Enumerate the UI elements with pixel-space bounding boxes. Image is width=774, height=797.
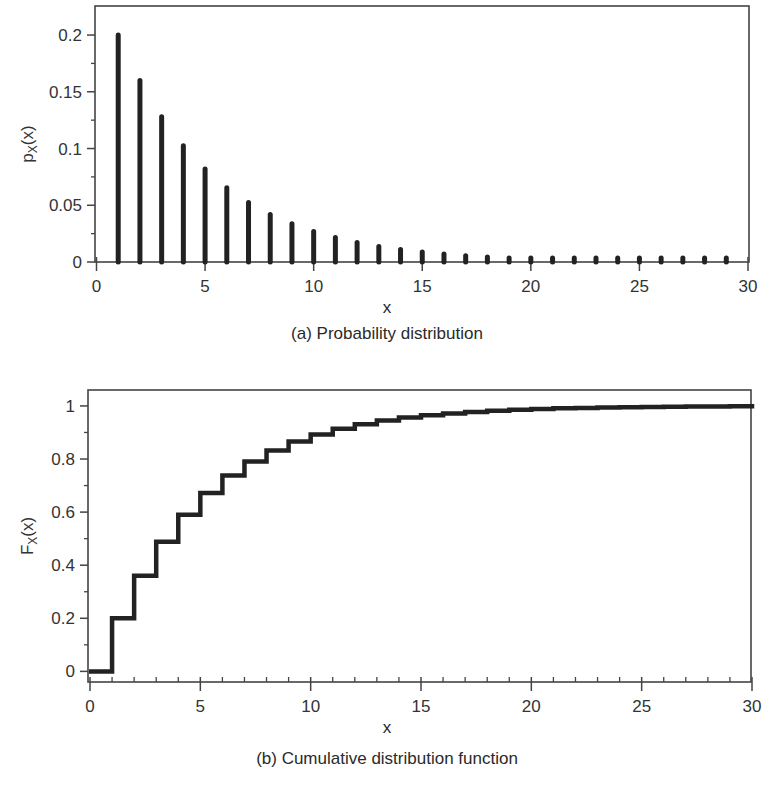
x-tick-label: 0 bbox=[92, 277, 101, 296]
pmf-y-axis-ticks: 00.050.10.150.2 bbox=[49, 26, 95, 272]
cdf-plot-frame bbox=[88, 390, 751, 682]
x-tick-label: 10 bbox=[301, 697, 320, 716]
figure: 00.050.10.150.2 051015202530 pX(x) 00.20… bbox=[0, 0, 774, 797]
x-tick-label: 30 bbox=[739, 277, 758, 296]
x-tick-label: 30 bbox=[743, 697, 762, 716]
cdf-x-axis-label: x bbox=[0, 718, 774, 738]
cdf-y-axis-ticks: 00.20.40.60.81 bbox=[51, 397, 88, 681]
y-tick-label: 1 bbox=[66, 397, 75, 416]
y-tick-label: 0.6 bbox=[51, 503, 75, 522]
y-tick-label: 0.05 bbox=[49, 196, 82, 215]
y-tick-label: 0.2 bbox=[51, 609, 75, 628]
pmf-stems bbox=[118, 35, 726, 262]
cdf-y-axis-label: FX(x) bbox=[18, 517, 40, 555]
x-tick-label: 0 bbox=[85, 697, 94, 716]
x-tick-label: 15 bbox=[413, 277, 432, 296]
cdf-chart: 00.20.40.60.81 051015202530 FX(x) bbox=[18, 390, 761, 716]
pmf-x-axis-ticks: 051015202530 bbox=[92, 257, 758, 296]
y-tick-label: 0.15 bbox=[49, 83, 82, 102]
x-tick-label: 15 bbox=[412, 697, 431, 716]
pmf-chart: 00.050.10.150.2 051015202530 pX(x) bbox=[18, 6, 757, 296]
x-tick-label: 25 bbox=[632, 697, 651, 716]
cdf-caption: (b) Cumulative distribution function bbox=[0, 749, 774, 769]
cdf-step-line bbox=[89, 406, 752, 671]
cdf-x-axis-ticks: 051015202530 bbox=[85, 677, 761, 716]
x-tick-label: 20 bbox=[522, 697, 541, 716]
y-tick-label: 0 bbox=[73, 253, 82, 272]
x-tick-label: 5 bbox=[196, 697, 205, 716]
pmf-plot-frame bbox=[95, 6, 749, 262]
x-tick-label: 5 bbox=[200, 277, 209, 296]
y-tick-label: 0.2 bbox=[58, 26, 82, 45]
x-tick-label: 25 bbox=[630, 277, 649, 296]
y-tick-label: 0.4 bbox=[51, 556, 75, 575]
y-tick-label: 0.8 bbox=[51, 450, 75, 469]
pmf-caption: (a) Probability distribution bbox=[0, 324, 774, 344]
x-tick-label: 10 bbox=[304, 277, 323, 296]
y-tick-label: 0 bbox=[66, 662, 75, 681]
pmf-x-axis-label: x bbox=[0, 298, 774, 318]
pmf-y-axis-label: pX(x) bbox=[18, 125, 40, 162]
y-tick-label: 0.1 bbox=[58, 140, 82, 159]
x-tick-label: 20 bbox=[521, 277, 540, 296]
